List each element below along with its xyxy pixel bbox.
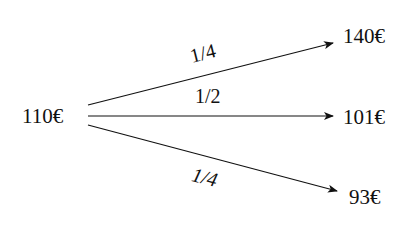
probability-label-mid: 1/2	[195, 86, 221, 106]
outcome-node-mid: 101€	[343, 107, 385, 128]
outcome-node-high: 140€	[343, 26, 385, 47]
probability-label-low: 1/4	[190, 164, 220, 190]
outcome-node-low: 93€	[349, 187, 381, 208]
root-node: 110€	[22, 106, 63, 127]
